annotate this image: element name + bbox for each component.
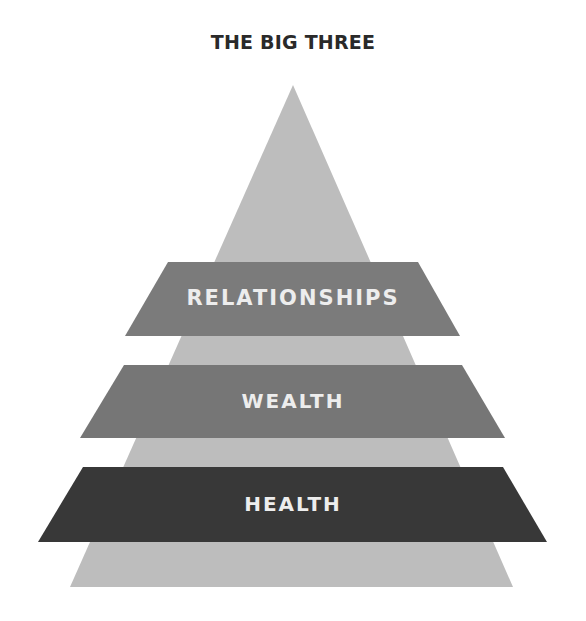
band-label-wealth: WEALTH <box>0 389 586 413</box>
pyramid-diagram <box>0 0 586 621</box>
band-label-relationships: RELATIONSHIPS <box>0 286 586 310</box>
band-label-health: HEALTH <box>0 492 586 516</box>
